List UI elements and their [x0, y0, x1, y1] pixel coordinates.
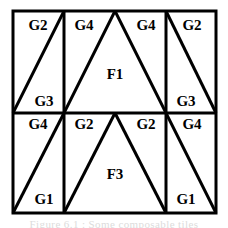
label-g4-bottom-right: G4 — [182, 116, 202, 132]
label-f1: F1 — [107, 66, 124, 82]
label-g1-bottom-right: G1 — [176, 191, 195, 207]
label-f3: F3 — [107, 166, 124, 182]
label-g2-bottom-middle-right: G2 — [136, 116, 155, 132]
label-g2-top-right: G2 — [182, 17, 201, 33]
label-g4-top-middle-left: G4 — [74, 17, 94, 33]
label-g4-bottom-left: G4 — [28, 116, 48, 132]
label-g4-top-middle-right: G4 — [136, 17, 156, 33]
tiling-diagram: G2 G3 G4 G4 F1 G2 G3 G4 G1 G2 G2 F3 G4 G… — [0, 0, 228, 228]
figure-root: G2 G3 G4 G4 F1 G2 G3 G4 G1 G2 G2 F3 G4 G… — [0, 0, 228, 228]
label-g3-top-left: G3 — [34, 93, 53, 109]
label-g2-bottom-middle-left: G2 — [74, 116, 93, 132]
label-g2-top-left: G2 — [28, 17, 47, 33]
figure-caption-partial: Figure 6.1 : Some composable tiles — [0, 219, 228, 228]
label-g3-top-right: G3 — [176, 93, 195, 109]
label-g1-bottom-left: G1 — [34, 191, 53, 207]
